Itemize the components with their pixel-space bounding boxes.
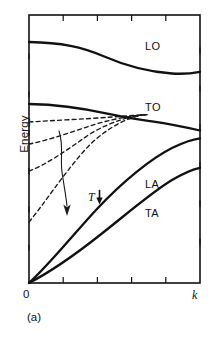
x-axis-origin-label: 0: [23, 288, 29, 300]
top-axis-ticks: [63, 15, 166, 21]
y-axis-label: Energy: [18, 94, 30, 174]
bottom-axis-ticks: [63, 277, 166, 283]
branch-label-la: LA: [145, 178, 159, 190]
dashed-curve-4: [29, 115, 147, 222]
sweep-arrow-shaft: [59, 131, 67, 206]
branch-label-ta: TA: [145, 207, 159, 219]
solid-branches: [29, 42, 200, 283]
figure-caption: (a): [27, 311, 41, 323]
la-branch-curve: [29, 138, 200, 283]
dashed-branches: [29, 115, 147, 222]
temperature-label: T: [88, 190, 95, 205]
plot-frame: [29, 15, 200, 283]
to-branch-curve: [29, 104, 200, 131]
lo-branch-curve: [29, 42, 200, 74]
figure-container: Energy 0 k LO TO LA TA T (a): [0, 0, 216, 340]
x-axis-label: k: [192, 288, 197, 303]
phonon-dispersion-plot: [0, 0, 216, 340]
branch-label-to: TO: [145, 101, 161, 113]
axes-frame: [29, 15, 200, 283]
ta-branch-curve: [29, 168, 200, 283]
dashed-curve-3: [29, 115, 147, 171]
branch-label-lo: LO: [145, 40, 160, 52]
